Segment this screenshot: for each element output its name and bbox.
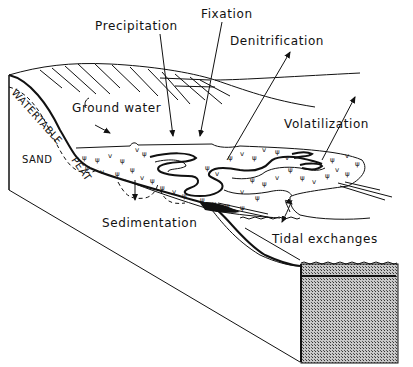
label-ground-water: Ground water xyxy=(72,101,161,115)
svg-text:ψ: ψ xyxy=(228,154,233,162)
label-sand: SAND xyxy=(22,154,53,165)
label-volatilization: Volatilization xyxy=(284,117,369,131)
svg-text:ψ: ψ xyxy=(130,166,135,174)
label-watertable: WATERTABLE xyxy=(10,87,65,146)
marsh-diagram: ψψvψ vψψv ψψvψ ψvψψ vψψ ψvψv ψvψv ψψvψ v… xyxy=(0,0,413,367)
label-precipitation: Precipitation xyxy=(95,19,178,33)
svg-text:ψ: ψ xyxy=(345,170,350,178)
label-sedimentation: Sedimentation xyxy=(102,216,197,230)
svg-text:ψ: ψ xyxy=(288,166,293,174)
svg-text:ψ: ψ xyxy=(330,156,335,164)
svg-text:v: v xyxy=(215,170,219,178)
svg-text:ψ: ψ xyxy=(142,150,147,158)
denitrification-arrow xyxy=(227,52,290,160)
svg-text:ψ: ψ xyxy=(200,196,205,204)
water-block xyxy=(301,264,398,363)
svg-text:v: v xyxy=(100,168,104,176)
svg-text:ψ: ψ xyxy=(225,202,230,210)
svg-text:ψ: ψ xyxy=(250,176,255,184)
svg-text:ψ: ψ xyxy=(150,177,155,185)
upland-surface xyxy=(9,63,360,108)
fixation-arrow xyxy=(200,22,222,136)
svg-text:v: v xyxy=(240,150,244,158)
svg-text:ψ: ψ xyxy=(300,174,305,182)
svg-text:ψ: ψ xyxy=(252,154,257,162)
svg-text:ψ: ψ xyxy=(182,192,187,200)
svg-text:v: v xyxy=(172,188,176,196)
svg-text:v: v xyxy=(240,188,244,196)
svg-text:v: v xyxy=(140,174,144,182)
svg-text:ψ: ψ xyxy=(240,204,245,212)
svg-text:ψ: ψ xyxy=(262,180,267,188)
svg-text:v: v xyxy=(262,146,266,154)
svg-text:v: v xyxy=(335,166,339,174)
svg-text:v: v xyxy=(275,174,279,182)
svg-text:v: v xyxy=(345,152,349,160)
svg-text:v: v xyxy=(285,154,289,162)
svg-text:v: v xyxy=(135,146,139,154)
precipitation-arrow xyxy=(160,34,173,136)
label-tidal-exchanges: Tidal exchanges xyxy=(271,232,378,246)
label-fixation: Fixation xyxy=(201,7,253,21)
svg-text:ψ: ψ xyxy=(115,170,120,178)
svg-text:ψ: ψ xyxy=(160,184,165,192)
svg-text:v: v xyxy=(108,152,112,160)
ground-water-arrow xyxy=(95,125,110,133)
svg-text:ψ: ψ xyxy=(120,157,125,165)
label-denitrification: Denitrification xyxy=(230,34,324,48)
svg-text:ψ: ψ xyxy=(355,160,360,168)
svg-text:v: v xyxy=(312,178,316,186)
svg-text:v: v xyxy=(212,200,216,208)
svg-text:ψ: ψ xyxy=(275,148,280,156)
svg-text:ψ: ψ xyxy=(325,172,330,180)
svg-text:ψ: ψ xyxy=(255,194,260,202)
svg-text:ψ: ψ xyxy=(205,164,210,172)
svg-text:ψ: ψ xyxy=(95,156,100,164)
